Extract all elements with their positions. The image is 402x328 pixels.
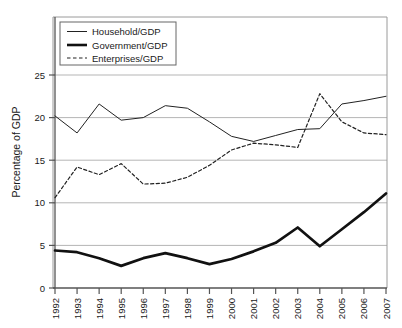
x-tick-label-2006: 2006 — [358, 298, 369, 319]
x-tick-label-1997: 1997 — [160, 298, 171, 319]
legend-label-government: Government/GDP — [92, 40, 168, 51]
chart-legend: Household/GDP Government/GDP Enterprises… — [60, 22, 176, 65]
x-axis-ticks: 1992199319941995199619971998199920002001… — [50, 288, 392, 319]
x-tick-label-2005: 2005 — [336, 298, 347, 319]
y-tick-label-25: 25 — [34, 70, 45, 81]
y-tick-label-5: 5 — [40, 240, 45, 251]
x-tick-label-1996: 1996 — [138, 298, 149, 319]
x-tick-label-2007: 2007 — [381, 298, 392, 319]
x-tick-label-2004: 2004 — [314, 298, 325, 319]
x-tick-label-1995: 1995 — [116, 298, 127, 319]
x-tick-label-1998: 1998 — [182, 298, 193, 319]
legend-label-household: Household/GDP — [92, 26, 161, 37]
x-tick-label-1994: 1994 — [94, 298, 105, 319]
line-chart: 0510152025 19921993199419951996199719981… — [0, 0, 402, 328]
x-tick-label-2000: 2000 — [226, 298, 237, 319]
x-tick-label-2002: 2002 — [270, 298, 281, 319]
x-tick-label-2001: 2001 — [248, 298, 259, 319]
legend-label-enterprises: Enterprises/GDP — [92, 53, 163, 64]
x-tick-label-2003: 2003 — [292, 298, 303, 319]
y-tick-label-10: 10 — [34, 197, 45, 208]
y-axis-title: Percentage of GDP — [10, 106, 22, 197]
y-tick-label-20: 20 — [34, 112, 45, 123]
x-tick-label-1999: 1999 — [204, 298, 215, 319]
chart-figure: 0510152025 19921993199419951996199719981… — [0, 0, 402, 328]
y-tick-label-0: 0 — [40, 283, 45, 294]
y-tick-label-15: 15 — [34, 155, 45, 166]
x-tick-label-1992: 1992 — [50, 298, 61, 319]
x-tick-label-1993: 1993 — [72, 298, 83, 319]
y-axis-ticks: 0510152025 — [34, 70, 55, 294]
